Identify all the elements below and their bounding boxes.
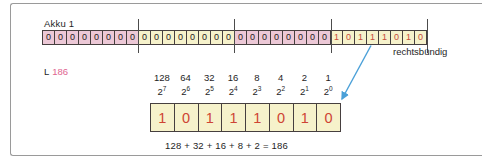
place-value-label: 8 <box>245 73 269 83</box>
power-of-two-label: 27 <box>150 87 174 97</box>
place-values-row: 1286432168421 <box>150 73 340 83</box>
place-value-label: 32 <box>198 73 222 83</box>
accumulator-label: Akku 1 <box>44 18 74 29</box>
alignment-label: rechtsbündig <box>393 46 447 57</box>
figure-binary-load-diagram: Akku 1 00000000000000000000000010111010 … <box>0 0 482 168</box>
byte-boundary-tick <box>138 19 139 53</box>
load-instruction: L186 <box>44 66 68 77</box>
expanded-byte-bit-cell: 1 <box>293 103 318 132</box>
expanded-byte-bit-cell: 0 <box>316 103 341 132</box>
place-value-label: 4 <box>269 73 293 83</box>
power-of-two-label: 26 <box>174 87 198 97</box>
place-value-label: 2 <box>293 73 317 83</box>
byte-boundary-tick <box>331 19 332 53</box>
place-value-label: 16 <box>221 73 245 83</box>
place-value-label: 64 <box>174 73 198 83</box>
instruction-opcode: L <box>44 66 49 77</box>
expanded-byte-bit-cell: 1 <box>150 103 175 132</box>
power-of-two-label: 23 <box>245 87 269 97</box>
expanded-byte-bit-cell: 1 <box>221 103 246 132</box>
instruction-operand: 186 <box>52 66 68 77</box>
byte-boundary-tick <box>234 19 235 53</box>
powers-row: 2726252423222120 <box>150 87 340 97</box>
power-of-two-label: 25 <box>198 87 222 97</box>
power-of-two-label: 21 <box>293 87 317 97</box>
expanded-byte-bit-cell: 0 <box>174 103 199 132</box>
register-bit-cell: 0 <box>414 30 427 45</box>
expanded-byte-bit-cell: 1 <box>245 103 270 132</box>
expanded-byte-bit-cell: 1 <box>198 103 223 132</box>
place-value-label: 1 <box>316 73 340 83</box>
power-of-two-label: 20 <box>316 87 340 97</box>
expanded-byte-box: 10111010 <box>150 103 341 132</box>
sum-equation: 128 + 32 + 16 + 8 + 2 = 186 <box>165 140 288 151</box>
power-of-two-label: 22 <box>269 87 293 97</box>
place-value-label: 128 <box>150 73 174 83</box>
power-of-two-label: 24 <box>221 87 245 97</box>
expanded-byte-bit-cell: 0 <box>269 103 294 132</box>
